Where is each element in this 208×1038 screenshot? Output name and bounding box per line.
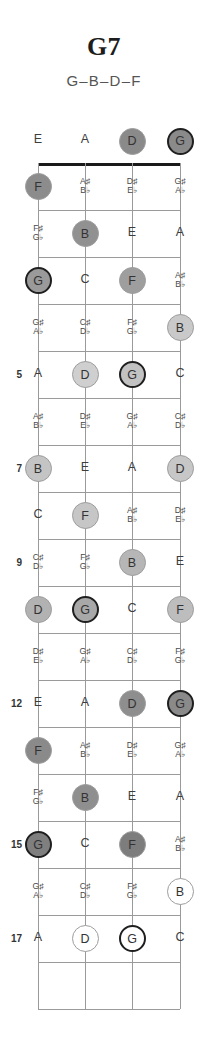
note-label: D♯ E♭ [112,741,152,760]
fret-line [38,304,180,305]
note-label: D♯ E♭ [65,412,105,431]
nut-line [38,163,180,166]
fret-line [38,1009,180,1010]
fret-line [38,821,180,822]
fret-line [38,492,180,493]
chord-tones-subtitle: G–B–D–F [0,72,208,89]
chord-tone-dot-g[interactable]: G [25,831,52,858]
fret-line [38,398,180,399]
note-label: A [18,367,58,380]
note-label: F♯ G♭ [65,553,105,572]
chord-tone-dot-f[interactable]: F [119,831,146,858]
note-label: A♯ B♭ [18,412,58,431]
note-label: E [65,461,105,474]
fret-line [38,680,180,681]
fret-number-15: 15 [0,839,22,850]
chord-tone-dot-b[interactable]: B [25,455,52,482]
note-label: E [112,226,152,239]
chord-tone-dot-f[interactable]: F [25,737,52,764]
note-label: C♯ D♭ [65,318,105,337]
chord-tone-dot-g[interactable]: G [119,361,146,388]
note-label: E [112,790,152,803]
note-label: D♯ E♭ [18,647,58,666]
fret-line [38,586,180,587]
chord-tone-dot-d[interactable]: D [167,455,194,482]
chord-title: G7 [0,32,208,62]
fret-line [38,539,180,540]
note-label: D♯ E♭ [160,506,200,525]
note-label: F♯ G♭ [18,788,58,807]
note-label: G♯ A♭ [65,647,105,666]
chord-tone-dot-f[interactable]: F [119,267,146,294]
chord-tone-dot-b[interactable]: B [72,220,99,247]
chord-tone-dot-g[interactable]: G [25,267,52,294]
chord-tone-dot-g[interactable]: G [167,128,194,155]
note-label: E [18,133,58,146]
fret-line [38,868,180,869]
chord-tone-dot-d[interactable]: D [25,596,52,623]
note-label: C♯ D♭ [160,412,200,431]
note-label: C [65,273,105,286]
note-label: D♯ E♭ [112,177,152,196]
chord-tone-dot-d[interactable]: D [119,690,146,717]
note-label: A [18,931,58,944]
note-label: G♯ A♭ [160,741,200,760]
note-label: E [160,555,200,568]
fret-number-7: 7 [0,463,22,474]
note-label: F♯ G♭ [160,647,200,666]
chord-tone-dot-b[interactable]: B [167,878,194,905]
note-label: C [18,508,58,521]
note-label: G♯ A♭ [18,318,58,337]
chord-tone-dot-g[interactable]: G [119,925,146,952]
chord-tone-dot-g[interactable]: G [167,690,194,717]
note-label: G♯ A♭ [160,177,200,196]
fret-line [38,445,180,446]
chord-tone-dot-b[interactable]: B [72,784,99,811]
note-label: F♯ G♭ [112,318,152,337]
note-label: A♯ B♭ [112,506,152,525]
note-label: A [160,790,200,803]
fret-line [38,351,180,352]
note-label: A♯ B♭ [160,271,200,290]
fret-line [38,962,180,963]
note-label: G♯ A♭ [18,882,58,901]
note-label: A [160,226,200,239]
note-label: E [18,696,58,709]
chord-tone-dot-d[interactable]: D [72,925,99,952]
note-label: A [65,133,105,146]
fret-line [38,727,180,728]
chord-tone-dot-b[interactable]: B [167,314,194,341]
chord-tone-dot-b[interactable]: B [119,549,146,576]
fretboard-diagram: G7 G–B–D–F EADGFA♯ B♭D♯ E♭G♯ A♭F♯ G♭BEAG… [0,0,208,1038]
fret-line [38,915,180,916]
chord-tone-dot-d[interactable]: D [119,128,146,155]
note-label: A♯ B♭ [65,741,105,760]
fret-line [38,774,180,775]
fret-line [38,257,180,258]
note-label: A♯ B♭ [160,835,200,854]
fret-line [38,633,180,634]
note-label: C♯ D♭ [65,882,105,901]
note-label: A [65,696,105,709]
note-label: A [112,461,152,474]
note-label: G♯ A♭ [112,412,152,431]
note-label: F♯ G♭ [18,224,58,243]
chord-tone-dot-f[interactable]: F [25,173,52,200]
note-label: A♯ B♭ [65,177,105,196]
chord-tone-dot-d[interactable]: D [72,361,99,388]
note-label: C♯ D♭ [112,647,152,666]
chord-tone-dot-g[interactable]: G [72,596,99,623]
note-label: C [112,602,152,615]
note-label: F♯ G♭ [112,882,152,901]
fret-line [38,210,180,211]
note-label: C [160,931,200,944]
note-label: C [160,367,200,380]
note-label: C [65,837,105,850]
note-label: C♯ D♭ [18,553,58,572]
chord-tone-dot-f[interactable]: F [167,596,194,623]
chord-tone-dot-f[interactable]: F [72,502,99,529]
